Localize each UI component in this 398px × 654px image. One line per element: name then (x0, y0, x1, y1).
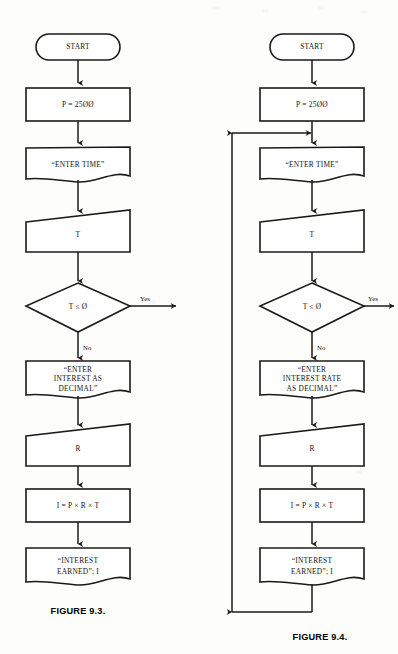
node-prompt-t-2-label: “ENTER TIME” (285, 160, 338, 169)
node-compute-i-label: I = P × R × T (57, 501, 100, 510)
node-decision-t-2-label: T ≤ Ø (303, 302, 322, 311)
node-start-label: START (66, 42, 90, 51)
branch-label-no: No (83, 344, 92, 351)
node-decision-t-label: T ≤ Ø (69, 302, 88, 311)
node-start-2-label: START (300, 42, 324, 51)
branch-label-no-2: No (317, 344, 326, 351)
node-prompt-r-line1: “ENTER (64, 365, 93, 374)
node-prompt-t-label: “ENTER TIME” (51, 160, 104, 169)
node-prompt-r-line3: DECIMAL” (59, 384, 98, 393)
node-input-t-2-label: T (310, 230, 315, 239)
node-input-t-label: T (76, 230, 81, 239)
page-canvas: START P = 25ØØ “ENTER TIME” T T ≤ Ø Yes … (0, 0, 398, 654)
node-compute-i-2-label: I = P × R × T (291, 501, 334, 510)
branch-label-yes: Yes (140, 295, 150, 302)
node-output-i-line2: EARNED”; I (57, 567, 99, 576)
figure-caption-9-4: FIGURE 9.4. (293, 632, 348, 642)
node-prompt-r-2-line1: “ENTER (298, 365, 327, 374)
flowchart-figure-9-3: START P = 25ØØ “ENTER TIME” T T ≤ Ø Yes … (0, 0, 398, 654)
node-output-i-2-line1: “INTEREST (292, 556, 333, 565)
node-assign-p-label: P = 25ØØ (62, 100, 94, 109)
node-output-i-2-line2: EARNED”; I (291, 567, 333, 576)
node-input-r-2-label: R (309, 444, 314, 453)
node-prompt-r-2-line2: INTEREST RATE (283, 374, 342, 383)
node-input-r-label: R (75, 444, 80, 453)
figure-caption-9-3: FIGURE 9.3. (51, 606, 106, 616)
node-prompt-r-line2: INTEREST AS (54, 374, 102, 383)
node-assign-p-2-label: P = 25ØØ (296, 100, 328, 109)
node-output-i-line1: “INTEREST (58, 556, 99, 565)
node-prompt-r-2-line3: AS DECIMAL” (287, 384, 338, 393)
branch-label-yes-2: Yes (368, 295, 378, 302)
